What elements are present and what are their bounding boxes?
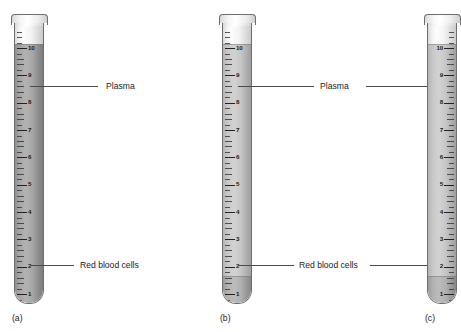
tube-a-tick-major-5 <box>17 185 27 186</box>
tube-c-tick-minor <box>447 196 454 197</box>
tube-c-tick-minor <box>449 300 454 301</box>
tube-c-tick-minor <box>449 54 454 55</box>
tube-c-tick-minor <box>447 174 454 175</box>
tube-b-tick-major-5 <box>225 185 235 186</box>
tube-c-tick-minor <box>449 97 454 98</box>
tube-c-tick-major-2 <box>444 267 454 268</box>
leader-line-rbc-a <box>30 265 74 266</box>
tube-b-tick-major-1 <box>225 294 235 295</box>
tube-c-tick-minor <box>449 190 454 191</box>
tube-c-tick-major-3 <box>444 239 454 240</box>
leader-line-plasma-a <box>30 86 98 87</box>
tube-b-scale-number-9: 9 <box>236 72 239 78</box>
tube-c-tick-minor <box>447 92 454 93</box>
tube-c-scale-number-4: 4 <box>440 209 443 215</box>
tube-a-tick-major-1 <box>17 294 27 295</box>
tube-c-tick-minor <box>447 146 454 147</box>
tube-a-tick-minor <box>17 168 24 169</box>
tube-c-tick-minor <box>449 207 454 208</box>
tube-a-tick-major-3 <box>17 239 27 240</box>
tube-b-tick-minor <box>225 218 230 219</box>
tube-c-scale-number-1: 1 <box>440 291 443 297</box>
tube-b-tick-major-6 <box>225 157 235 158</box>
tube-c-tick-minor <box>449 125 454 126</box>
tube-c-tick-minor <box>447 283 454 284</box>
label-rbc-a: Red blood cells <box>80 260 139 270</box>
tube-b-tick-minor <box>225 168 232 169</box>
tube-c-scale-number-5: 5 <box>440 181 443 187</box>
tube-b-tick-major-7 <box>225 130 235 131</box>
tube-a-caption: (a) <box>12 313 23 323</box>
tube-b-tick-minor <box>225 250 232 251</box>
tube-c-tick-minor <box>447 223 454 224</box>
tube-c-tick-minor <box>449 108 454 109</box>
tube-c-tick-minor <box>447 168 454 169</box>
tube-a-tick-minor <box>17 43 22 44</box>
tube-b-body: 10987654321 <box>222 26 252 304</box>
leader-line-rbc-b <box>238 265 294 266</box>
tube-c-tick-major-5 <box>444 185 454 186</box>
tube-c-scale-number-7: 7 <box>440 127 443 133</box>
tube-c-tick-minor <box>447 278 454 279</box>
tube-c-tick-minor <box>449 218 454 219</box>
tube-c-scale-number-6: 6 <box>440 154 443 160</box>
tube-a-scale-number-5: 5 <box>28 181 31 187</box>
tube-c-tick-minor <box>447 119 454 120</box>
tube-a-tick-minor <box>17 136 22 137</box>
tube-b-tick-minor <box>225 37 230 38</box>
tube-b-tick-major-10 <box>225 48 235 49</box>
tube-c-tick-minor <box>449 81 454 82</box>
tube-b-tick-minor <box>225 43 230 44</box>
tube-c-tick-minor <box>449 289 454 290</box>
tube-b-tick-minor <box>225 125 230 126</box>
tube-a-tick-minor <box>17 278 24 279</box>
tube-a-tick-minor <box>17 218 22 219</box>
tube-a-tick-minor <box>17 163 22 164</box>
tube-a-tick-minor <box>17 146 24 147</box>
tube-b-tick-minor <box>225 256 232 257</box>
tube-a-tick-minor <box>17 272 22 273</box>
tube-a-tick-minor <box>17 207 22 208</box>
tube-a-tick-minor <box>17 152 22 153</box>
tube-c-caption: (c) <box>425 313 435 323</box>
tube-b-scale: 10987654321 <box>224 26 240 304</box>
label-rbc-b: Red blood cells <box>299 260 358 270</box>
tube-c-scale-number-2: 2 <box>440 263 443 269</box>
tube-c-tick-major-8 <box>444 103 454 104</box>
tube-b-tick-major-9 <box>225 75 235 76</box>
tube-b-tick-minor <box>225 261 230 262</box>
tube-a-scale: 10987654321 <box>16 26 32 304</box>
tube-b-tick-minor <box>225 300 230 301</box>
tube-a-tick-minor <box>17 234 22 235</box>
tube-a-scale-number-1: 1 <box>28 291 31 297</box>
tube-a-tick-minor <box>17 141 24 142</box>
tube-a-tick-minor <box>17 86 24 87</box>
tube-a-scale-number-7: 7 <box>28 127 31 133</box>
tube-a-tick-minor <box>17 64 24 65</box>
tube-a-tick-major-7 <box>17 130 27 131</box>
tube-c-tick-minor <box>447 86 454 87</box>
tube-b-tick-minor <box>225 223 232 224</box>
tube-b-tick-minor <box>225 283 232 284</box>
label-plasma-a: Plasma <box>106 81 135 91</box>
tube-a-tick-major-8 <box>17 103 27 104</box>
tube-a-tick-minor <box>17 190 22 191</box>
tube-b-tick-minor <box>225 32 230 33</box>
tube-c-tick-minor <box>449 32 454 33</box>
tube-c-tick-minor <box>447 201 454 202</box>
tube-a-tick-minor <box>17 125 22 126</box>
tube-a-scale-number-10: 10 <box>28 45 34 51</box>
tube-b-tick-minor <box>225 289 230 290</box>
tube-c-tick-minor <box>449 152 454 153</box>
tube-c-scale-number-9: 9 <box>440 72 443 78</box>
tube-b-tick-minor <box>225 207 230 208</box>
tube-c-tick-major-4 <box>444 212 454 213</box>
tube-a-tick-minor <box>17 174 24 175</box>
tube-a-tick-minor <box>17 289 22 290</box>
tube-a-tick-minor <box>17 201 24 202</box>
tube-b-scale-number-3: 3 <box>236 236 239 242</box>
tube-c-scale-number-8: 8 <box>440 99 443 105</box>
tube-c-tick-minor <box>449 261 454 262</box>
tube-b-tick-minor <box>225 86 232 87</box>
tube-b-tick-minor <box>225 234 230 235</box>
